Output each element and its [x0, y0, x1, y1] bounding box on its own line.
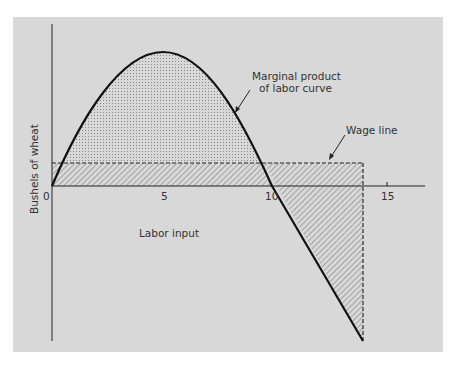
mpl-annotation-line2: of labor curve: [259, 82, 332, 94]
y-axis-label: Bushels of wheat: [28, 124, 40, 214]
x-tick-label-0: 0: [43, 190, 50, 202]
mpl-annotation-arrow: [237, 90, 250, 110]
chart-plot: Marginal product of labor curve Wage lin…: [0, 0, 455, 367]
x-tick-label-10: 10: [265, 190, 278, 202]
wage-annotation-arrow: [331, 135, 345, 157]
x-tick-label-15: 15: [381, 190, 394, 202]
wage-annotation: Wage line: [346, 124, 398, 136]
x-axis-label: Labor input: [139, 227, 199, 239]
mpl-annotation-line1: Marginal product: [252, 70, 341, 82]
hatched-wage-band: [52, 163, 272, 186]
x-tick-label-5: 5: [161, 190, 168, 202]
